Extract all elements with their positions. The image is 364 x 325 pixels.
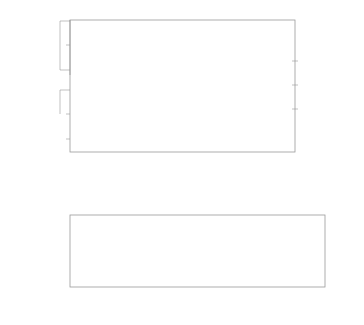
top-panel-frame: [70, 20, 295, 152]
paleoclimate-chart: [0, 0, 364, 325]
bottom-panel-frame: [70, 215, 325, 287]
top-panel: [60, 20, 298, 152]
bottom-panel: [70, 215, 325, 287]
left-y-axes: [60, 20, 70, 139]
